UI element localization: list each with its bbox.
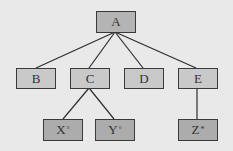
node-a: A [96,11,136,33]
node-c-label: C [86,71,95,87]
edge-a-d [115,32,143,68]
node-c: C [70,68,110,89]
node-z-label: Z [192,122,200,138]
node-d: D [124,68,164,89]
edge-a-b [36,32,115,68]
node-a-label: A [111,14,120,30]
node-z: Z* [178,119,218,141]
node-x: X° [43,119,83,141]
node-e: E [178,68,218,89]
node-y-label: Y [108,122,117,138]
edge-c-x [63,88,89,119]
node-d-label: D [139,71,148,87]
edge-c-y [89,88,114,119]
node-b: B [16,68,56,89]
edge-a-e [115,32,196,68]
node-e-label: E [194,71,202,87]
node-y: Y° [95,119,135,141]
node-b-label: B [32,71,41,87]
node-x-label: X [56,122,65,138]
